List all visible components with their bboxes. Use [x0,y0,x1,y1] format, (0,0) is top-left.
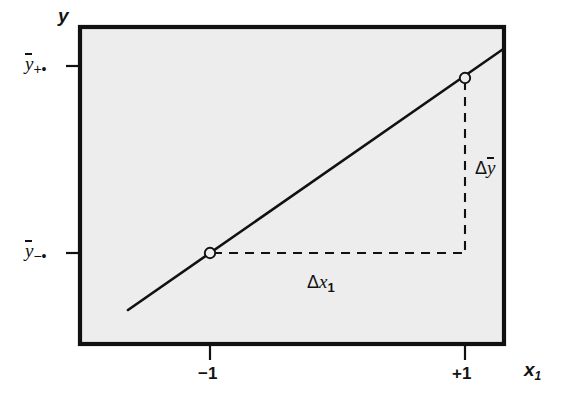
y-tick-label-upper-subscript: +• [33,61,46,77]
delta-glyph-y: Δ [475,158,487,178]
x-tick-label-plus-one: +1 [452,365,471,382]
chart-figure: y x1 y+• y−• −1 +1 Δy Δx1 [0,0,572,420]
annotation-delta-x: Δx1 [307,272,335,291]
y-tick-label-lower-subscript: −• [33,248,46,264]
y-axis-label: y [58,6,69,25]
x-annotation-subscript: 1 [327,280,334,295]
plot-area-background [80,27,504,344]
y-bar-glyph-annotation: y [487,158,495,177]
effect-plot-svg [0,0,572,420]
y-tick-label-upper: y+• [25,54,47,73]
y-tick-label-lower: y−• [25,241,47,260]
delta-glyph-x: Δ [307,272,319,292]
x-axis-label: x1 [524,360,541,379]
annotation-delta-y: Δy [475,158,495,177]
x-tick-label-minus-one: −1 [198,365,217,382]
data-point-marker-minus-one [205,248,215,258]
data-point-marker-plus-one [460,73,470,83]
x-axis-label-subscript: 1 [535,369,542,383]
